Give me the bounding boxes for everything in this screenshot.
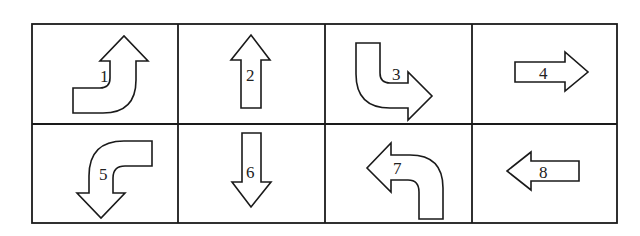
curved-left-arrow-icon — [367, 143, 443, 219]
cell-label: 3 — [392, 65, 401, 84]
cell-label: 5 — [99, 165, 108, 184]
cell-1: 1 — [73, 36, 148, 113]
arrow-grid-diagram: 1 2 3 4 5 6 7 8 — [0, 0, 640, 236]
cell-6: 6 — [232, 133, 271, 207]
cell-label: 8 — [539, 163, 548, 182]
cell-2: 2 — [231, 35, 270, 108]
cell-label: 4 — [539, 64, 548, 83]
curved-down-arrow-icon — [77, 141, 152, 218]
arrow-right-icon — [515, 52, 588, 91]
cell-label: 7 — [393, 159, 402, 178]
cell-label: 1 — [100, 67, 109, 86]
cell-8: 8 — [507, 152, 579, 190]
cell-7: 7 — [367, 143, 443, 219]
cell-4: 4 — [515, 52, 588, 91]
cell-5: 5 — [77, 141, 152, 218]
cell-label: 2 — [246, 66, 255, 85]
cell-label: 6 — [246, 163, 255, 182]
cell-3: 3 — [356, 43, 432, 120]
curved-up-arrow-icon — [73, 36, 148, 113]
